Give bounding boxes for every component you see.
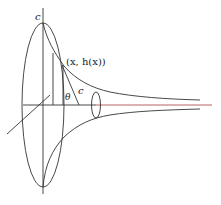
depth-axis	[7, 95, 50, 134]
label-segment-c: c	[78, 85, 84, 96]
label-top-c: c	[35, 11, 41, 22]
tractrix-diagram: c (x, h(x)) θ c	[0, 0, 221, 205]
label-theta: θ	[65, 92, 71, 102]
tractrix-lower	[43, 109, 200, 187]
label-point: (x, h(x))	[66, 56, 106, 67]
